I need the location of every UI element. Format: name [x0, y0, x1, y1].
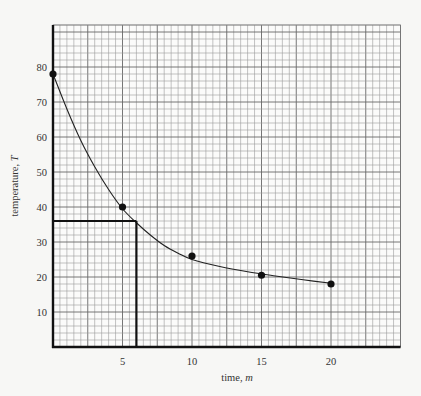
- x-axis-label: time, m: [221, 372, 253, 383]
- data-point: [258, 272, 265, 279]
- data-point: [119, 203, 126, 210]
- y-axis-label: temperature, T: [9, 154, 20, 216]
- x-tick-label: 5: [120, 356, 125, 367]
- data-point: [327, 280, 334, 287]
- data-point: [188, 252, 195, 259]
- y-tick-label: 40: [37, 202, 48, 213]
- x-tick-label: 20: [326, 356, 337, 367]
- x-tick-label: 10: [187, 356, 198, 367]
- data-point: [49, 70, 56, 77]
- y-tick-label: 70: [37, 97, 48, 108]
- y-tick-label: 80: [37, 62, 48, 73]
- y-tick-label: 10: [37, 307, 48, 318]
- y-tick-label: 50: [37, 167, 48, 178]
- y-tick-label: 60: [37, 132, 48, 143]
- x-tick-label: 15: [256, 356, 267, 367]
- grid: [53, 25, 401, 347]
- cooling-curve-chart: 51015201020304050607080 time, m temperat…: [0, 0, 421, 396]
- y-tick-label: 20: [37, 272, 48, 283]
- y-tick-label: 30: [37, 237, 48, 248]
